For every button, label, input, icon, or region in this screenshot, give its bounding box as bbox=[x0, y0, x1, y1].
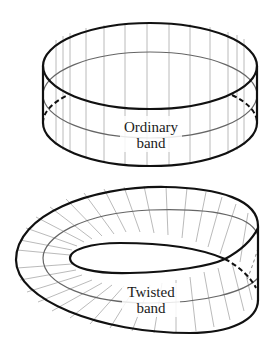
twisted-band-midline-hidden bbox=[247, 248, 258, 280]
twisted-band-label-line1: Twisted bbox=[127, 284, 175, 300]
twisted-band: Twisted band bbox=[16, 186, 258, 333]
ordinary-band-label-line1: Ordinary bbox=[124, 119, 179, 135]
ordinary-band: Ordinary band bbox=[43, 23, 257, 166]
bands-diagram: Ordinary band bbox=[0, 0, 275, 350]
ordinary-band-bottom-rim-back-left bbox=[43, 95, 68, 123]
figure: Ordinary band bbox=[0, 0, 275, 350]
ordinary-band-midline-back bbox=[43, 52, 257, 95]
ordinary-band-top-rim bbox=[43, 23, 257, 109]
ordinary-band-label-line2: band bbox=[136, 135, 166, 151]
twisted-band-inner-edge bbox=[70, 228, 258, 273]
ordinary-band-bottom-rim-back-right bbox=[232, 95, 257, 123]
twisted-band-label-line2: band bbox=[136, 300, 166, 316]
